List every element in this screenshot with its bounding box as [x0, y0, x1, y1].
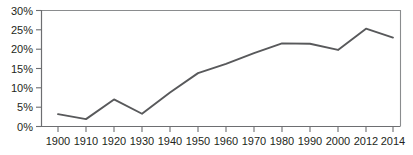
plot-background [41, 10, 400, 126]
y-tick-label: 0% [17, 121, 33, 133]
x-tick-label: 1910 [74, 135, 98, 147]
x-tick-label: 1920 [102, 135, 126, 147]
x-tick-label: 1900 [46, 135, 70, 147]
y-tick-label: 30% [11, 5, 33, 17]
x-axis-ticks [58, 127, 393, 133]
x-tick-label: 2014 [381, 135, 405, 147]
x-tick-label: 1950 [186, 135, 210, 147]
x-axis-labels: 1900 1910 1920 1930 1940 1950 1960 1970 … [46, 135, 405, 147]
y-axis-ticks [36, 11, 42, 127]
y-tick-label: 25% [11, 24, 33, 36]
y-tick-label: 10% [11, 82, 33, 94]
x-tick-label: 1960 [214, 135, 238, 147]
y-tick-label: 5% [17, 101, 33, 113]
x-tick-label: 1990 [298, 135, 322, 147]
line-chart: 30% 25% 20% 15% 10% 5% 0% 1900 [0, 0, 413, 155]
x-tick-label: 1930 [130, 135, 154, 147]
y-tick-label: 20% [11, 43, 33, 55]
y-axis-labels: 30% 25% 20% 15% 10% 5% 0% [11, 5, 33, 133]
x-tick-label: 1940 [158, 135, 182, 147]
x-tick-label: 1970 [242, 135, 266, 147]
x-tick-label: 2000 [326, 135, 350, 147]
x-tick-label: 2012 [354, 135, 378, 147]
chart-canvas: 30% 25% 20% 15% 10% 5% 0% 1900 [0, 0, 413, 155]
x-tick-label: 1980 [270, 135, 294, 147]
y-tick-label: 15% [11, 63, 33, 75]
